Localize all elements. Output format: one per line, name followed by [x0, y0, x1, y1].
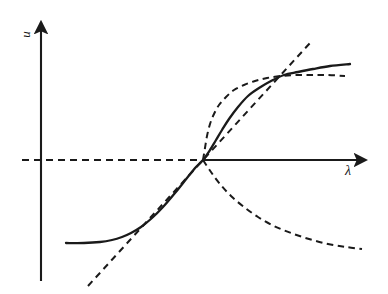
- y-axis-label: u: [19, 31, 32, 38]
- dashed-lower-branch-path: [203, 160, 362, 249]
- x-axis-label: λ: [345, 164, 351, 178]
- dashed-straight-branch-path: [88, 43, 310, 286]
- dashed-upper-branch-path: [203, 75, 345, 160]
- curves-group: [66, 43, 362, 286]
- plot-canvas: [0, 0, 388, 294]
- bifurcation-figure: u λ: [0, 0, 388, 294]
